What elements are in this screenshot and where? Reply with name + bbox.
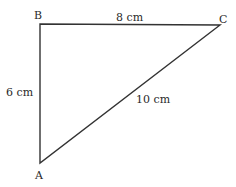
vertex-label-c: C: [219, 13, 227, 26]
triangle-abc: [40, 24, 220, 163]
side-label-bc: 8 cm: [116, 11, 144, 24]
side-label-ab: 6 cm: [6, 86, 34, 99]
vertex-label-a: A: [34, 169, 44, 182]
triangle-diagram: B C A 8 cm 6 cm 10 cm: [0, 0, 236, 187]
vertex-label-b: B: [34, 9, 42, 22]
side-label-ac: 10 cm: [136, 93, 171, 106]
